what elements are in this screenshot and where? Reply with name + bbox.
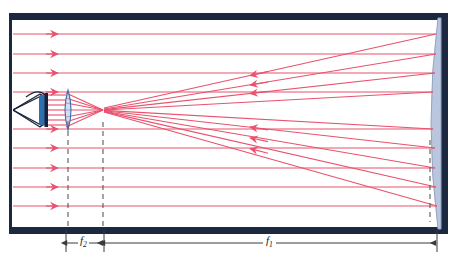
reflected-rays-lower (104, 110, 437, 206)
telescope-ray-diagram: f2 f1 (0, 0, 460, 269)
incoming-ray-arrowheads-upper (46, 34, 58, 92)
observer-eye (13, 92, 48, 127)
concave-primary-mirror (431, 18, 441, 229)
reflected-ray-arrowheads-lower (250, 127, 268, 153)
incoming-rays-upper (12, 34, 436, 92)
dimension-f1-label: f1 (263, 234, 276, 249)
dashed-reference-lines (68, 122, 430, 226)
diagram-canvas (0, 0, 460, 269)
reflected-ray-arrowheads-upper (250, 72, 268, 94)
dimension-f2-label: f2 (78, 234, 89, 249)
reflected-rays-upper (104, 34, 436, 110)
incoming-ray-arrowheads-lower (46, 129, 58, 206)
